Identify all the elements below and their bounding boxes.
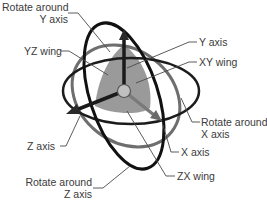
label-yz-wing: YZ wing — [24, 45, 62, 57]
label-z-axis: Z axis — [27, 140, 55, 152]
gizmo-diagram — [0, 0, 267, 201]
label-rotate-y-line1: Rotate around — [2, 1, 68, 13]
label-zx-wing: ZX wing — [177, 170, 215, 182]
label-x-axis: X axis — [181, 146, 210, 158]
leader-rotate-x — [181, 98, 200, 122]
center-ball — [118, 85, 131, 98]
leader-rotate-z — [93, 166, 130, 188]
leader-z-axis — [60, 116, 80, 146]
label-rotate-around-z: Rotate around Z axis — [24, 176, 92, 200]
label-rotate-around-y: Rotate around Y axis — [2, 1, 68, 25]
label-rotate-z-line1: Rotate around — [24, 176, 92, 188]
label-rotate-y-line2: Y axis — [2, 13, 68, 25]
label-rotate-x-line2: X axis — [201, 128, 267, 140]
label-rotate-around-x: Rotate around X axis — [201, 116, 267, 140]
label-rotate-x-line1: Rotate around — [201, 116, 267, 128]
label-rotate-z-line2: Z axis — [24, 188, 92, 200]
label-xy-wing: XY wing — [199, 56, 237, 68]
label-y-axis: Y axis — [199, 36, 227, 48]
